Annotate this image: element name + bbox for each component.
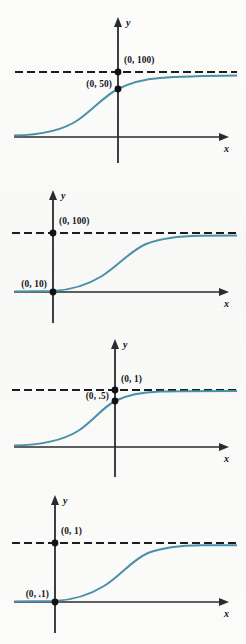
asymptote-label-1: (0, 100) bbox=[124, 55, 154, 66]
x-axis-arrow-4 bbox=[219, 598, 229, 606]
graph-svg-3: (0, 1) (0, .5) y x bbox=[0, 325, 246, 485]
graph-panel-1: (0, 100) (0, 50) y x bbox=[0, 0, 246, 165]
figure-page: (0, 100) (0, 50) y x (0, 100) (0, 10) y bbox=[0, 0, 246, 644]
intercept-point-4 bbox=[52, 599, 59, 606]
asymptote-point-2 bbox=[50, 230, 57, 237]
graph-panel-3: (0, 1) (0, .5) y x bbox=[0, 325, 246, 485]
x-axis-arrow-3 bbox=[219, 443, 229, 451]
graph-svg-2: (0, 100) (0, 10) y x bbox=[0, 165, 246, 325]
intercept-label-3: (0, .5) bbox=[86, 391, 109, 402]
x-axis-arrow-2 bbox=[219, 288, 229, 296]
y-axis-arrow-4 bbox=[51, 495, 59, 505]
intercept-label-4: (0, .1) bbox=[26, 589, 49, 600]
x-axis-label-2: x bbox=[223, 298, 229, 309]
logistic-curve-3 bbox=[14, 391, 237, 446]
intercept-point-2 bbox=[50, 289, 57, 296]
graph-svg-1: (0, 100) (0, 50) y x bbox=[0, 0, 246, 165]
y-axis-label-1: y bbox=[125, 17, 131, 28]
logistic-curve-1 bbox=[14, 76, 237, 136]
x-axis-label-1: x bbox=[223, 143, 229, 154]
graph-panel-2: (0, 100) (0, 10) y x bbox=[0, 165, 246, 325]
graph-panel-4: (0, 1) (0, .1) y x bbox=[0, 485, 246, 644]
y-axis-arrow-1 bbox=[114, 17, 122, 27]
graph-svg-4: (0, 1) (0, .1) y x bbox=[0, 485, 246, 644]
y-axis-label-4: y bbox=[62, 495, 68, 506]
x-axis-arrow-1 bbox=[219, 133, 229, 141]
asymptote-label-4: (0, 1) bbox=[61, 526, 82, 537]
intercept-label-1: (0, 50) bbox=[86, 79, 112, 90]
y-axis-arrow-2 bbox=[49, 190, 57, 200]
x-axis-label-4: x bbox=[223, 608, 229, 619]
intercept-point-3 bbox=[112, 398, 119, 405]
y-axis-label-2: y bbox=[60, 190, 66, 201]
asymptote-point-4 bbox=[52, 540, 59, 547]
intercept-label-2: (0, 10) bbox=[21, 279, 47, 290]
asymptote-point-1 bbox=[115, 69, 122, 76]
asymptote-label-2: (0, 100) bbox=[59, 216, 89, 227]
asymptote-label-3: (0, 1) bbox=[121, 374, 142, 385]
y-axis-arrow-3 bbox=[111, 339, 119, 349]
logistic-curve-2 bbox=[14, 236, 237, 292]
asymptote-point-3 bbox=[112, 387, 119, 394]
intercept-point-1 bbox=[115, 86, 122, 93]
y-axis-label-3: y bbox=[122, 339, 128, 350]
x-axis-label-3: x bbox=[223, 453, 229, 464]
